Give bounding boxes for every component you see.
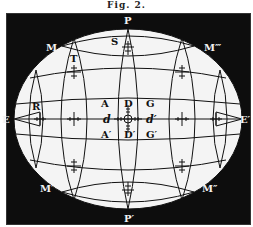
label-a: A [100,98,109,109]
label-m-top-right: M‴ [204,42,222,53]
label-d-small: d [103,113,111,126]
label-s: S [111,36,118,47]
label-m-bottom-right: M″ [202,183,218,194]
label-m-top-left: M [46,42,57,53]
label-pole-bottom: P′ [124,213,135,224]
label-d-small-prime: d′ [146,113,157,126]
globe-diagram: P P′ E E′ M M‴ M′ M″ S T R A D G d d′ A′… [0,0,253,227]
label-t: T [70,53,78,64]
label-r: R [32,101,41,112]
label-e-left: E [2,114,10,125]
label-pole-top: P [124,15,132,26]
label-d: D [124,98,133,109]
label-d-prime: D′ [124,129,136,140]
label-g-prime: G′ [146,129,158,140]
label-a-prime: A′ [100,129,112,140]
label-g: G [146,98,155,109]
label-e-right: E′ [240,114,251,125]
label-m-bottom-left: M′ [40,183,54,194]
